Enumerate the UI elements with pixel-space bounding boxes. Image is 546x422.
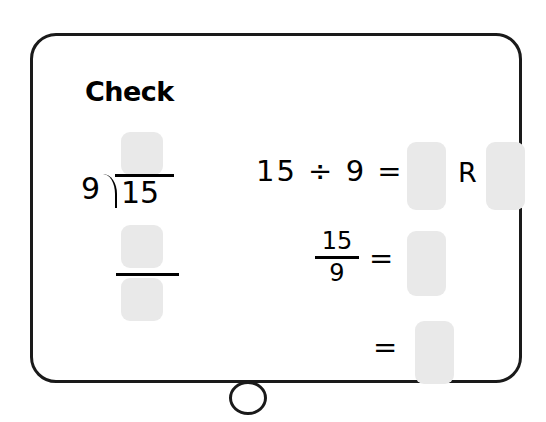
division-quotient-answer-box[interactable] (407, 142, 446, 210)
fraction-answer-box[interactable] (407, 231, 446, 296)
remainder-label: R (458, 159, 477, 186)
tablet-frame: Check 9 15 15 ÷ 9 = R 15 9 = = (30, 33, 522, 383)
division-bracket-icon (103, 174, 117, 208)
fraction-equals-sign: = (369, 244, 393, 273)
fraction-denominator: 9 (315, 261, 359, 286)
long-division-remainder-box[interactable] (121, 278, 163, 321)
long-division-quotient-box[interactable] (121, 132, 163, 175)
division-remainder-answer-box[interactable] (486, 142, 525, 210)
home-button[interactable] (229, 381, 267, 415)
fraction-expression: 15 9 (315, 229, 359, 286)
division-expression: 15 ÷ 9 = (256, 157, 404, 186)
long-division-divisor: 9 (81, 174, 100, 204)
long-division-dividend: 15 (121, 178, 159, 208)
final-answer-box[interactable] (415, 321, 454, 384)
fraction-numerator: 15 (315, 229, 359, 254)
long-division-workspace: 9 15 (73, 126, 223, 326)
long-division-subtrahend-box[interactable] (121, 225, 163, 268)
subtraction-rule-line (116, 273, 179, 276)
final-equals-sign: = (373, 333, 397, 362)
equations-column: 15 ÷ 9 = R 15 9 = = (243, 131, 543, 396)
page-title: Check (85, 78, 174, 105)
